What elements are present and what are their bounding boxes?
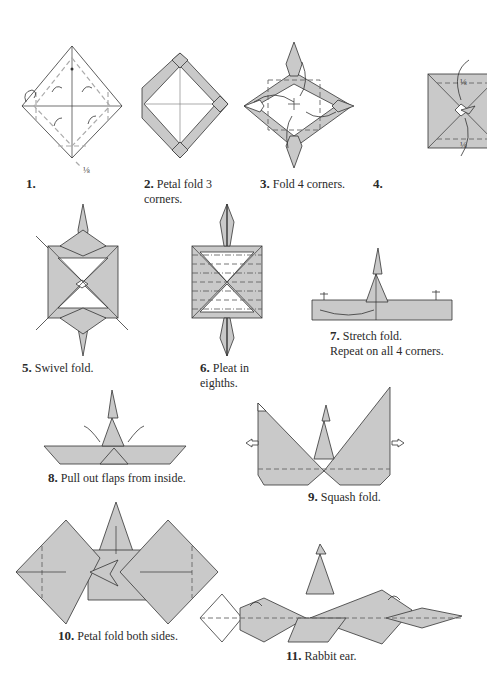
step-1: ⅛ 1. bbox=[0, 0, 130, 195]
step-3-caption: 3.Fold 4 corners. bbox=[260, 176, 345, 192]
step-1-caption: 1. bbox=[26, 176, 39, 192]
step-3: 3.Fold 4 corners. bbox=[240, 0, 365, 200]
step-2-diagram bbox=[130, 0, 240, 200]
eighth-mark-top: ⅛ bbox=[460, 77, 467, 87]
eighth-mark: ⅛ bbox=[83, 165, 90, 175]
step-8: 8.Pull out flaps from inside. bbox=[30, 370, 230, 490]
step-10-caption: 10.Petal fold both sides. bbox=[58, 628, 178, 644]
step-11: 11.Rabbit ear. bbox=[190, 520, 487, 675]
step-6-diagram bbox=[170, 200, 280, 380]
step-7-caption: 7.Stretch fold. Repeat on all 4 corners. bbox=[330, 328, 444, 359]
step-1-diagram bbox=[0, 0, 130, 195]
step-4: ⅛ ⅛ 4. bbox=[365, 0, 487, 200]
step-6: 6.Pleat in eighths. bbox=[170, 200, 280, 380]
eighth-mark-bottom: ⅛ bbox=[460, 140, 467, 150]
step-9-diagram bbox=[230, 365, 420, 505]
step-8-caption: 8.Pull out flaps from inside. bbox=[48, 470, 186, 486]
pull-arrow-icon bbox=[84, 426, 100, 442]
step-3-diagram bbox=[240, 0, 365, 200]
step-7: 7.Stretch fold. Repeat on all 4 corners. bbox=[290, 230, 487, 370]
step-4-caption: 4. bbox=[373, 176, 386, 192]
step-9: 9.Squash fold. bbox=[230, 365, 420, 505]
pull-arrow-icon bbox=[128, 426, 144, 442]
squash-arrow-icon bbox=[392, 439, 404, 447]
squash-arrow-icon bbox=[246, 439, 258, 447]
step-5-diagram bbox=[20, 200, 160, 370]
step-2: 2.Petal fold 3 corners. bbox=[130, 0, 240, 200]
step-9-caption: 9.Squash fold. bbox=[308, 489, 381, 505]
step-11-caption: 11.Rabbit ear. bbox=[286, 648, 357, 664]
step-4-diagram bbox=[365, 0, 487, 200]
step-5: 5.Swivel fold. bbox=[20, 200, 160, 370]
